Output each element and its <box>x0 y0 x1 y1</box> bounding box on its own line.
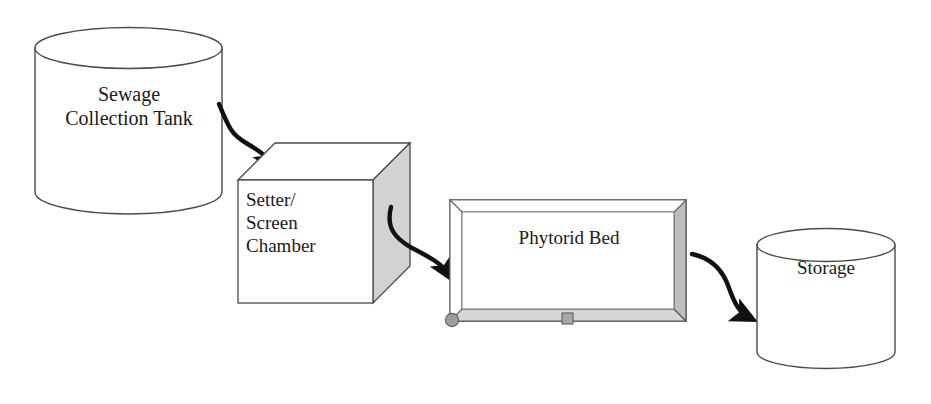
node-phytorid-bed[interactable] <box>445 200 686 327</box>
arrow-bed-to-storage <box>692 254 750 318</box>
bed-interior <box>462 212 674 309</box>
node-setter-screen-chamber[interactable] <box>238 143 410 303</box>
node-storage[interactable] <box>757 229 895 369</box>
bed-corner-handle-circle-icon[interactable] <box>445 313 458 326</box>
bed-bottom-handle-square-icon[interactable] <box>562 313 573 324</box>
bed-right-wall <box>674 200 686 321</box>
cylinder-top-ellipse <box>35 28 222 69</box>
storage-cylinder-top-ellipse <box>757 229 895 262</box>
process-flow-diagram: Sewage Collection Tank Setter/ Screen Ch… <box>0 0 931 404</box>
node-sewage-collection-tank[interactable] <box>35 28 222 215</box>
bed-left-wall <box>450 200 462 321</box>
storage-cylinder-body <box>757 245 895 369</box>
diagram-canvas <box>0 0 931 404</box>
cube-front-face <box>238 180 373 303</box>
cylinder-body <box>35 48 222 214</box>
bed-top-rim <box>450 200 686 212</box>
